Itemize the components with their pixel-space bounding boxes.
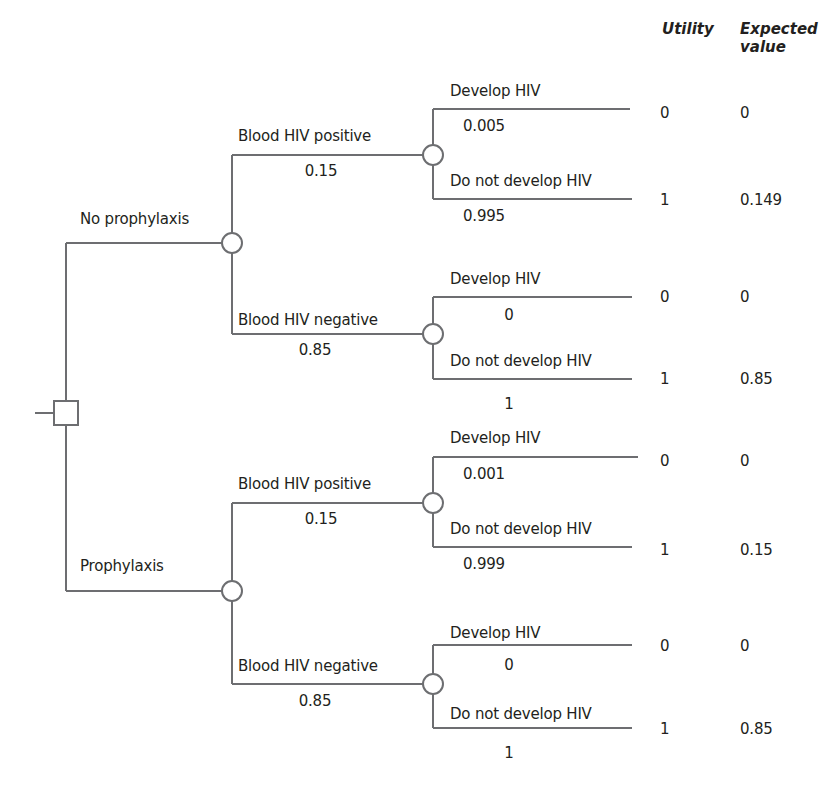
header-expected-value-line2: value [740,38,786,56]
outcome-prob: 0.995 [463,207,505,225]
header-utility: Utility [662,20,714,38]
branch-prob: 0.85 [299,692,332,710]
branch-label: Blood HIV positive [238,127,371,145]
expected-value: 0.85 [740,720,773,738]
outcome-label: Develop HIV [450,624,540,642]
branch-prob: 0.15 [305,162,338,180]
outcome-label: Develop HIV [450,82,540,100]
outcome-label: Do not develop HIV [450,705,592,723]
strategy-label-prophylaxis: Prophylaxis [80,557,164,575]
expected-value: 0 [740,452,749,470]
decision-node-square [54,401,78,425]
outcome-label: Do not develop HIV [450,352,592,370]
expected-value: 0.149 [740,191,782,209]
utility-value: 0 [660,288,669,306]
utility-value: 0 [660,452,669,470]
outcome-prob: 0 [504,656,513,674]
outcome-prob: 0.001 [463,465,505,483]
outcome-prob: 0 [504,306,513,324]
chance-node [222,233,242,253]
outcome-prob: 1 [504,744,513,762]
header-expected-value-line1: Expected [740,20,818,38]
utility-value: 1 [660,370,669,388]
utility-value: 0 [660,637,669,655]
expected-value: 0.85 [740,370,773,388]
decision-tree-lines [0,0,835,806]
utility-value: 1 [660,191,669,209]
outcome-prob: 0.005 [463,117,505,135]
outcome-prob: 1 [504,395,513,413]
expected-value: 0.15 [740,541,773,559]
outcome-label: Develop HIV [450,270,540,288]
utility-value: 1 [660,720,669,738]
branch-label: Blood HIV negative [238,311,378,329]
expected-value: 0 [740,637,749,655]
outcome-prob: 0.999 [463,555,505,573]
branch-prob: 0.15 [305,510,338,528]
outcome-label: Develop HIV [450,429,540,447]
outcome-label: Do not develop HIV [450,520,592,538]
outcome-label: Do not develop HIV [450,172,592,190]
strategy-label-no-prophylaxis: No prophylaxis [80,210,189,228]
branch-prob: 0.85 [299,341,332,359]
utility-value: 0 [660,104,669,122]
utility-value: 1 [660,541,669,559]
expected-value: 0 [740,104,749,122]
branch-label: Blood HIV negative [238,657,378,675]
branch-label: Blood HIV positive [238,475,371,493]
expected-value: 0 [740,288,749,306]
